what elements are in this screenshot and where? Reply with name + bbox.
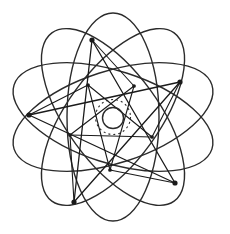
vertex-marker-v5 [26,112,31,117]
inner-vertex-marker-w4 [68,133,72,137]
vertex-marker-v2 [177,79,182,84]
vertex-marker-v3 [172,180,177,185]
inner-vertex-marker-w1 [132,84,136,88]
vertex-marker-v4 [71,199,76,204]
inner-vertex-marker-w3 [108,168,112,172]
vertex-marker-v1 [89,37,94,42]
inner-vertex-marker-w2 [150,135,154,139]
inner-vertex-marker-w5 [86,83,90,87]
figure-canvas [0,0,230,234]
rosette-diagram [0,0,230,234]
